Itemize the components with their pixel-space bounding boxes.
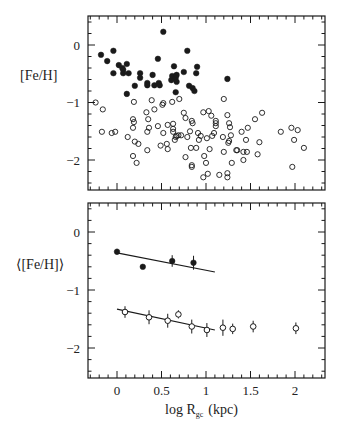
filled-data-point — [225, 76, 231, 82]
open-data-point — [243, 137, 248, 142]
filled-data-point — [124, 61, 130, 67]
open-data-point — [260, 110, 265, 115]
open-data-point — [109, 130, 114, 135]
open-data-point — [220, 134, 225, 139]
open-mean-point — [293, 326, 299, 332]
bottom-panel-y-axis-label: ⟨[Fe/H]⟩ — [16, 257, 64, 272]
open-data-point — [202, 153, 207, 158]
open-data-point — [144, 110, 149, 115]
top-panel-y-tick-labels: 0−1−2 — [66, 38, 80, 168]
open-data-point — [170, 99, 175, 104]
bottom-panel-data-points — [114, 249, 299, 337]
open-data-point — [295, 128, 300, 133]
open-data-point — [203, 160, 208, 165]
filled-data-point — [161, 29, 167, 35]
open-data-point — [239, 129, 244, 134]
top-panel-y-axis-label: [Fe/H] — [20, 68, 57, 83]
y-tick-label: −2 — [66, 153, 80, 168]
open-data-point — [245, 125, 250, 130]
bottom-panel-y-tick-labels: 0−1−2 — [66, 225, 80, 356]
open-data-point — [188, 145, 193, 150]
top-panel-ticks — [88, 16, 325, 190]
filled-data-point — [155, 56, 161, 62]
open-data-point — [278, 129, 283, 134]
open-data-point — [183, 115, 188, 120]
open-data-point — [155, 124, 160, 129]
open-data-point — [244, 149, 249, 154]
top-panel-frame — [88, 16, 325, 190]
x-tick-label: 0 — [114, 383, 121, 398]
open-data-point — [225, 113, 230, 118]
filled-data-point — [157, 83, 163, 89]
open-data-point — [100, 107, 105, 112]
open-data-point — [252, 117, 257, 122]
open-data-point — [183, 155, 188, 160]
open-data-point — [289, 125, 294, 130]
open-mean-point — [189, 324, 195, 330]
open-mean-point — [146, 315, 152, 321]
filled-data-point — [98, 52, 104, 58]
y-tick-label: 0 — [74, 225, 81, 240]
open-data-point — [221, 96, 226, 101]
open-data-point — [301, 145, 306, 150]
open-data-point — [229, 160, 234, 165]
open-data-point — [146, 117, 151, 122]
filled-data-point — [174, 79, 180, 85]
y-tick-label: −1 — [66, 283, 80, 298]
bottom-panel-x-tick-labels: 00.511.52 — [114, 383, 299, 398]
x-axis-label-main: log R — [165, 402, 196, 417]
open-data-point — [201, 175, 206, 180]
filled-data-point — [192, 88, 198, 94]
open-data-point — [171, 121, 176, 126]
x-tick-label: 2 — [292, 383, 299, 398]
open-mean-point — [250, 324, 256, 330]
filled-data-point — [171, 64, 177, 70]
open-data-point — [152, 107, 157, 112]
open-data-point — [241, 157, 246, 162]
open-data-point — [164, 141, 169, 146]
open-data-point — [227, 138, 232, 143]
open-data-point — [131, 99, 136, 104]
x-tick-label: 1.5 — [242, 383, 258, 398]
y-tick-label: 0 — [74, 38, 81, 53]
filled-data-point — [150, 72, 156, 78]
open-mean-point — [220, 325, 226, 331]
open-data-point — [99, 129, 104, 134]
filled-data-point — [137, 75, 143, 81]
open-data-point — [161, 101, 166, 106]
open-mean-point — [176, 312, 182, 318]
fit-line — [117, 253, 215, 272]
open-data-point — [130, 125, 135, 130]
filled-data-point — [132, 83, 138, 89]
x-axis-label-unit: (kpc) — [208, 402, 238, 418]
filled-data-point — [120, 70, 126, 76]
open-data-point — [145, 148, 150, 153]
open-data-point — [134, 160, 139, 165]
open-data-point — [177, 96, 182, 101]
open-data-point — [158, 143, 163, 148]
open-data-point — [204, 136, 209, 141]
filled-data-point — [124, 91, 130, 97]
bottom-panel-means: 0−1−2 00.511.52 ⟨[Fe/H]⟩ log Rgc(kpc) — [16, 203, 325, 419]
bottom-panel-frame — [88, 203, 325, 378]
open-data-point — [201, 110, 206, 115]
open-mean-point — [165, 318, 171, 324]
filled-data-point — [104, 58, 110, 64]
open-data-point — [165, 122, 170, 127]
filled-data-point — [111, 70, 117, 76]
filled-data-point — [126, 70, 132, 76]
filled-data-point — [185, 48, 191, 54]
open-data-point — [149, 98, 154, 103]
top-panel-scatter: 0−1−2 [Fe/H] — [20, 16, 325, 190]
open-data-point — [187, 129, 192, 134]
open-data-point — [255, 152, 260, 157]
open-data-point — [228, 133, 233, 138]
open-data-point — [194, 145, 199, 150]
filled-data-point — [173, 89, 179, 95]
filled-data-point — [194, 64, 200, 70]
filled-data-point — [111, 48, 117, 54]
open-data-point — [165, 147, 170, 152]
x-tick-label: 0.5 — [153, 383, 169, 398]
bottom-panel-ticks — [88, 203, 325, 378]
filled-data-point — [181, 69, 187, 75]
